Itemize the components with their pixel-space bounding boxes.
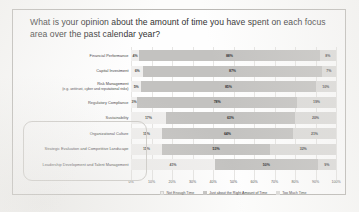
x-axis-tick: 90% [312,180,319,184]
bar-segment-value: 6% [131,69,143,73]
x-axis-tick: 30% [189,180,196,184]
bar-segment: 9% [318,159,336,170]
bar-segment-value: 20% [295,116,336,120]
bar-segment: 7% [322,66,336,77]
table-row: Leadership Development and Talent Manage… [13,157,347,173]
bar-segment: 20% [295,112,336,123]
bar-segment-value: 15% [131,132,162,136]
category-label: Regulatory Compliance [24,100,129,105]
bar-segment: 64% [162,128,293,139]
page-title: What is your opinion about the amount of… [30,17,330,40]
bar-segment: 32% [270,144,336,155]
table-row: Strategic Evaluation and Competitive Lan… [13,142,347,158]
bar-segment: 5% [131,81,141,92]
bar-track: 41%50%9% [131,159,336,170]
bar-segment-value: 64% [162,132,293,136]
legend-swatch [160,191,164,195]
legend-item: Just about the Right Amount of Time [203,191,267,195]
bar-segment: 78% [137,97,297,108]
slide-page: What is your opinion about the amount of… [0,0,359,212]
legend-label: Just about the Right Amount of Time [209,191,267,195]
x-axis-tick: 100% [331,180,340,184]
slide-frame: What is your opinion about the amount of… [12,9,346,195]
bar-segment: 4% [131,50,139,61]
bar-segment-value: 8% [320,54,336,58]
bar-segment-value: 17% [131,116,166,120]
bar-segment: 17% [131,112,166,123]
bar-segment-value: 50% [215,163,318,167]
bar-segment: 6% [131,66,143,77]
bar-segment-value: 10% [316,85,337,89]
bar-segment-value: 78% [137,100,297,104]
bar-segment-value: 63% [166,116,295,120]
bar-segment-value: 21% [293,132,336,136]
bar-track: 15%53%32% [131,144,336,155]
chart-legend: Not Enough TimeJust about the Right Amou… [131,188,336,197]
bar-segment-value: 9% [318,163,336,167]
table-row: Organizational Culture15%64%21% [13,126,347,142]
category-label: Strategic Evaluation and Competitive Lan… [24,147,129,152]
bar-segment-value: 85% [141,85,315,89]
bar-segment: 50% [215,159,318,170]
x-axis-tick: 50% [230,180,237,184]
bar-segment: 15% [131,144,162,155]
legend-label: Not Enough Time [166,191,194,195]
bar-segment-value: 7% [322,69,336,73]
bar-segment-value: 4% [131,54,139,58]
bar-segment: 88% [139,50,319,61]
bar-segment: 21% [293,128,336,139]
category-label: Risk Management(e.g. antitrust, cyber an… [24,82,129,91]
legend-swatch [276,191,280,195]
table-row: Capital Investment6%87%7% [13,64,347,80]
x-axis-tick: 20% [168,180,175,184]
bar-segment-value: 19% [297,100,336,104]
legend-item: Not Enough Time [160,191,194,195]
bar-track: 3%78%19% [131,97,336,108]
table-row: Sustainability17%63%20% [13,110,347,126]
legend-item: Too Much Time [276,191,306,195]
bar-segment: 63% [166,112,295,123]
bar-segment: 85% [141,81,315,92]
category-label: Financial Performance [24,54,129,59]
bar-segment: 10% [316,81,337,92]
bar-segment-value: 32% [270,147,336,151]
bar-segment: 41% [131,159,215,170]
table-row: Risk Management(e.g. antitrust, cyber an… [13,79,347,95]
bar-segment: 19% [297,97,336,108]
bar-track: 17%63%20% [131,112,336,123]
x-axis-tick: 40% [209,180,216,184]
bar-track: 15%64%21% [131,128,336,139]
bar-segment-value: 53% [162,147,271,151]
bar-segment: 15% [131,128,162,139]
bar-segment-value: 88% [139,54,319,58]
category-sublabel: (e.g. antitrust, cyber and reputational … [24,87,129,92]
bar-segment: 53% [162,144,271,155]
table-row: Financial Performance4%88%8% [13,48,347,64]
legend-swatch [203,191,207,195]
stacked-bar-chart: Financial Performance4%88%8%Capital Inve… [13,47,347,195]
bar-segment: 87% [143,66,321,77]
legend-label: Too Much Time [282,191,306,195]
category-label: Sustainability [24,116,129,121]
bar-track: 4%88%8% [131,50,336,61]
bar-track: 5%85%10% [131,81,336,92]
bar-segment-value: 5% [131,85,141,89]
bar-segment-value: 41% [131,163,215,167]
x-axis-tick: 0% [128,180,133,184]
bar-track: 6%87%7% [131,66,336,77]
x-axis-tick: 10% [148,180,155,184]
bar-segment-value: 15% [131,147,162,151]
x-axis-tick: 60% [250,180,257,184]
bar-segment-value: 87% [143,69,321,73]
bar-segment: 8% [320,50,336,61]
x-axis-tick: 80% [291,180,298,184]
category-label: Organizational Culture [24,132,129,137]
table-row: Regulatory Compliance3%78%19% [13,95,347,111]
category-label: Leadership Development and Talent Manage… [24,163,129,168]
category-label: Capital Investment [24,69,129,74]
x-axis-tick: 70% [271,180,278,184]
